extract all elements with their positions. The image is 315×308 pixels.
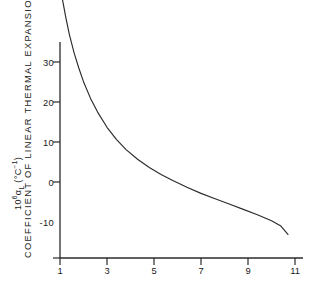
- y-tick-30: 30: [22, 58, 54, 59]
- y-tick-label: -10: [26, 218, 54, 227]
- y-tick-10: 10: [22, 138, 54, 139]
- x-tick-1: 1: [50, 266, 70, 275]
- y-tick-0: 0: [22, 178, 54, 179]
- y-tick-label: 0: [26, 178, 54, 187]
- y-tick-20: 20: [22, 98, 54, 99]
- chart-figure: COEFFICIENT OF LINEAR THERMAL EXPANSION …: [0, 0, 315, 308]
- y-symbol-base: 10: [13, 199, 23, 210]
- y-symbol-alpha: α: [13, 190, 23, 196]
- x-tick-marks: [60, 258, 295, 265]
- x-tick-7: 7: [191, 266, 211, 275]
- y-symbol-units-open: (°C: [13, 168, 23, 185]
- y-tick-marks: [53, 62, 60, 258]
- y-symbol-exponent: 6: [11, 195, 18, 199]
- y-tick-label: 10: [26, 138, 54, 147]
- y-tick-label: 20: [26, 98, 54, 107]
- y-symbol-subscript: L: [18, 186, 25, 190]
- x-tick-5: 5: [144, 266, 164, 275]
- y-symbol-units-exponent: −1: [11, 160, 18, 168]
- y-symbol-units-close: ): [13, 157, 23, 160]
- y-axis-symbol-label: 106αL (°C−1): [12, 157, 25, 210]
- data-series-line: [60, 0, 288, 234]
- x-tick-11: 11: [285, 266, 305, 275]
- y-tick-neg10: -10: [22, 218, 54, 219]
- y-tick-label: 30: [26, 58, 54, 67]
- x-tick-9: 9: [238, 266, 258, 275]
- plot-area: [0, 0, 315, 308]
- x-tick-3: 3: [97, 266, 117, 275]
